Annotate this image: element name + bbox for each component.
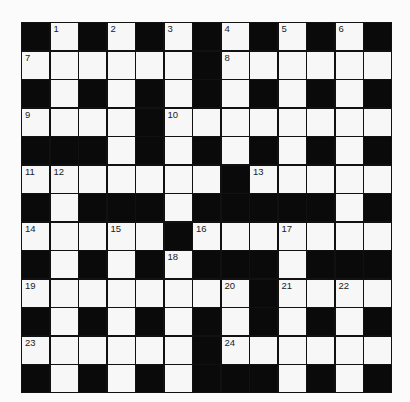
grid-cell[interactable]: 5 (279, 23, 306, 50)
grid-cell[interactable]: 22 (336, 280, 363, 307)
grid-cell[interactable] (336, 52, 363, 79)
grid-cell[interactable] (336, 365, 363, 392)
grid-cell[interactable] (165, 137, 192, 164)
grid-cell[interactable] (108, 251, 135, 278)
grid-cell[interactable] (136, 337, 163, 364)
grid-cell[interactable] (136, 223, 163, 250)
grid-cell[interactable]: 14 (22, 223, 49, 250)
grid-cell[interactable] (136, 280, 163, 307)
grid-cell[interactable] (336, 80, 363, 107)
grid-cell[interactable] (307, 52, 334, 79)
grid-cell[interactable] (165, 308, 192, 335)
grid-cell[interactable] (193, 280, 220, 307)
grid-cell[interactable] (336, 137, 363, 164)
grid-cell[interactable] (51, 109, 78, 136)
grid-cell[interactable] (364, 52, 391, 79)
grid-cell[interactable] (79, 223, 106, 250)
grid-cell[interactable] (79, 337, 106, 364)
grid-cell[interactable] (51, 194, 78, 221)
grid-cell[interactable]: 15 (108, 223, 135, 250)
grid-cell[interactable] (136, 166, 163, 193)
grid-cell[interactable]: 19 (22, 280, 49, 307)
grid-cell[interactable] (165, 80, 192, 107)
grid-cell[interactable] (336, 194, 363, 221)
grid-cell[interactable] (108, 166, 135, 193)
grid-cell[interactable] (51, 308, 78, 335)
grid-cell[interactable]: 2 (108, 23, 135, 50)
grid-cell[interactable] (79, 280, 106, 307)
grid-cell[interactable]: 4 (222, 23, 249, 50)
grid-cell[interactable]: 6 (336, 23, 363, 50)
grid-cell[interactable] (51, 365, 78, 392)
grid-cell[interactable]: 24 (222, 337, 249, 364)
grid-cell[interactable]: 20 (222, 280, 249, 307)
grid-cell[interactable] (250, 337, 277, 364)
grid-cell[interactable] (222, 308, 249, 335)
grid-cell[interactable] (307, 223, 334, 250)
grid-cell[interactable] (165, 166, 192, 193)
grid-cell[interactable] (336, 109, 363, 136)
grid-cell[interactable] (222, 80, 249, 107)
grid-cell[interactable] (51, 223, 78, 250)
grid-cell[interactable]: 1 (51, 23, 78, 50)
grid-cell[interactable] (222, 109, 249, 136)
grid-cell[interactable]: 9 (22, 109, 49, 136)
grid-cell[interactable] (364, 337, 391, 364)
grid-cell[interactable] (279, 137, 306, 164)
grid-cell[interactable] (364, 109, 391, 136)
grid-cell[interactable] (108, 109, 135, 136)
grid-cell[interactable] (165, 280, 192, 307)
grid-cell[interactable] (279, 251, 306, 278)
grid-cell[interactable] (51, 251, 78, 278)
grid-cell[interactable]: 13 (250, 166, 277, 193)
grid-cell[interactable] (222, 223, 249, 250)
grid-cell[interactable]: 18 (165, 251, 192, 278)
grid-cell[interactable] (279, 80, 306, 107)
grid-cell[interactable]: 12 (51, 166, 78, 193)
grid-cell[interactable] (79, 109, 106, 136)
grid-cell[interactable] (364, 223, 391, 250)
grid-cell[interactable] (108, 137, 135, 164)
grid-cell[interactable] (193, 166, 220, 193)
grid-cell[interactable] (279, 365, 306, 392)
grid-cell[interactable] (364, 280, 391, 307)
grid-cell[interactable] (108, 337, 135, 364)
grid-cell[interactable] (250, 223, 277, 250)
grid-cell[interactable] (108, 52, 135, 79)
grid-cell[interactable]: 17 (279, 223, 306, 250)
grid-cell[interactable] (336, 166, 363, 193)
grid-cell[interactable] (307, 280, 334, 307)
grid-cell[interactable] (79, 166, 106, 193)
grid-cell[interactable] (336, 337, 363, 364)
grid-cell[interactable] (279, 166, 306, 193)
grid-cell[interactable] (165, 194, 192, 221)
grid-cell[interactable]: 10 (165, 109, 192, 136)
grid-cell[interactable] (136, 52, 163, 79)
grid-cell[interactable] (165, 52, 192, 79)
grid-cell[interactable] (307, 109, 334, 136)
grid-cell[interactable]: 21 (279, 280, 306, 307)
grid-cell[interactable] (108, 280, 135, 307)
grid-cell[interactable] (51, 80, 78, 107)
grid-cell[interactable] (51, 52, 78, 79)
grid-cell[interactable]: 3 (165, 23, 192, 50)
grid-cell[interactable] (336, 308, 363, 335)
grid-cell[interactable]: 11 (22, 166, 49, 193)
grid-cell[interactable] (108, 308, 135, 335)
grid-cell[interactable] (222, 137, 249, 164)
grid-cell[interactable] (108, 80, 135, 107)
grid-cell[interactable] (279, 337, 306, 364)
grid-cell[interactable]: 8 (222, 52, 249, 79)
grid-cell[interactable] (279, 308, 306, 335)
grid-cell[interactable] (51, 280, 78, 307)
grid-cell[interactable]: 16 (193, 223, 220, 250)
grid-cell[interactable] (79, 52, 106, 79)
grid-cell[interactable] (336, 223, 363, 250)
grid-cell[interactable] (250, 109, 277, 136)
grid-cell[interactable] (165, 337, 192, 364)
grid-cell[interactable] (193, 109, 220, 136)
grid-cell[interactable] (307, 166, 334, 193)
grid-cell[interactable]: 7 (22, 52, 49, 79)
grid-cell[interactable] (279, 109, 306, 136)
grid-cell[interactable] (108, 365, 135, 392)
